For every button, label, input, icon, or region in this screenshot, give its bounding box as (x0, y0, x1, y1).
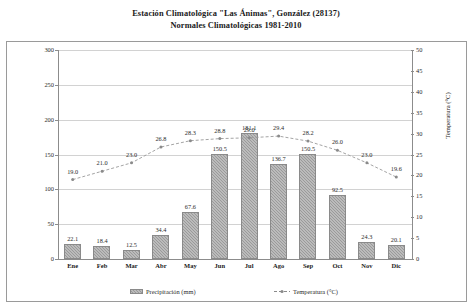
x-tick-label: Feb (87, 262, 116, 270)
x-tick-label: Oct (323, 262, 352, 270)
x-tick-label: Sep (293, 262, 322, 270)
temperature-value-label: 19.0 (58, 169, 88, 175)
legend-label-temperature: Temperatura (°C) (293, 288, 338, 295)
tick-mark (411, 196, 414, 197)
chart-title: Estación Climatológica "Las Ánimas", Gon… (0, 8, 472, 31)
y-tick-left: 100 (28, 186, 54, 192)
y-tick-right: 20 (416, 172, 442, 178)
bar-swatch-icon (130, 289, 143, 294)
temperature-point (248, 136, 251, 139)
temperature-value-label: 29.4 (264, 125, 294, 131)
line-marker-icon (274, 288, 290, 295)
temperature-value-label: 28.2 (293, 130, 323, 136)
y-tick-right: 50 (416, 47, 442, 53)
temperature-point (307, 140, 310, 143)
temperature-value-label: 23.0 (352, 152, 382, 158)
temperature-point (336, 149, 339, 152)
x-tick-label: Jul (235, 262, 264, 270)
temperature-value-label: 29.0 (234, 127, 264, 133)
x-tick-label: Nov (352, 262, 381, 270)
x-tick-label: Jun (205, 262, 234, 270)
x-tick-label: Mar (117, 262, 146, 270)
tick-mark (411, 50, 414, 51)
x-tick-label: Ene (58, 262, 87, 270)
legend-item-precipitation: Precipitación (mm) (130, 288, 196, 295)
chart-legend: Precipitación (mm) Temperatura (°C) (6, 285, 465, 299)
y-tick-left: 300 (28, 47, 54, 53)
title-line-2: Normales Climatológicas 1981-2010 (0, 20, 472, 32)
temperature-point (277, 135, 280, 138)
temperature-point (365, 161, 368, 164)
tick-mark (411, 217, 414, 218)
y-axis-right-title: Temperatura (°C) (444, 92, 451, 138)
x-tick-label: Ago (264, 262, 293, 270)
temperature-point (159, 145, 162, 148)
tick-mark (411, 155, 414, 156)
y-tick-right: 5 (416, 235, 442, 241)
temperature-value-label: 28.8 (205, 128, 235, 134)
temperature-point (395, 176, 398, 179)
y-tick-right: 25 (416, 152, 442, 158)
temperature-value-label: 21.0 (87, 160, 117, 166)
temperature-point (218, 137, 221, 140)
x-tick-label: Dic (382, 262, 411, 270)
tick-mark (411, 175, 414, 176)
temperature-value-label: 19.6 (381, 166, 411, 172)
tick-mark (55, 259, 58, 260)
climate-chart-page: Estación Climatológica "Las Ánimas", Gon… (0, 0, 472, 307)
temperature-value-label: 26.8 (146, 136, 176, 142)
temperature-point (71, 178, 74, 181)
temperature-point (189, 139, 192, 142)
y-tick-right: 15 (416, 193, 442, 199)
tick-mark (411, 71, 414, 72)
tick-mark (411, 259, 414, 260)
tick-mark (411, 113, 414, 114)
tick-mark (411, 134, 414, 135)
legend-item-temperature: Temperatura (°C) (274, 288, 338, 295)
y-tick-right: 45 (416, 68, 442, 74)
y-tick-right: 35 (416, 110, 442, 116)
y-tick-right: 10 (416, 214, 442, 220)
y-tick-left: 0 (28, 256, 54, 262)
y-tick-right: 40 (416, 89, 442, 95)
tick-mark (411, 92, 414, 93)
temperature-value-label: 26.0 (322, 139, 352, 145)
y-tick-right: 0 (416, 256, 442, 262)
temperature-value-label: 28.3 (175, 130, 205, 136)
x-tick-label: Abr (146, 262, 175, 270)
y-tick-left: 50 (28, 221, 54, 227)
tick-mark (411, 238, 414, 239)
title-line-1: Estación Climatológica "Las Ánimas", Gon… (0, 8, 472, 20)
y-tick-left: 200 (28, 117, 54, 123)
y-tick-right: 30 (416, 131, 442, 137)
legend-label-precipitation: Precipitación (mm) (146, 288, 196, 295)
temperature-point (101, 170, 104, 173)
temperature-point (130, 161, 133, 164)
y-tick-left: 250 (28, 82, 54, 88)
temperature-value-label: 23.0 (117, 152, 147, 158)
x-axis-labels: EneFebMarAbrMayJunJulAgoSepOctNovDic (58, 262, 411, 274)
y-tick-left: 150 (28, 152, 54, 158)
x-tick-label: May (176, 262, 205, 270)
